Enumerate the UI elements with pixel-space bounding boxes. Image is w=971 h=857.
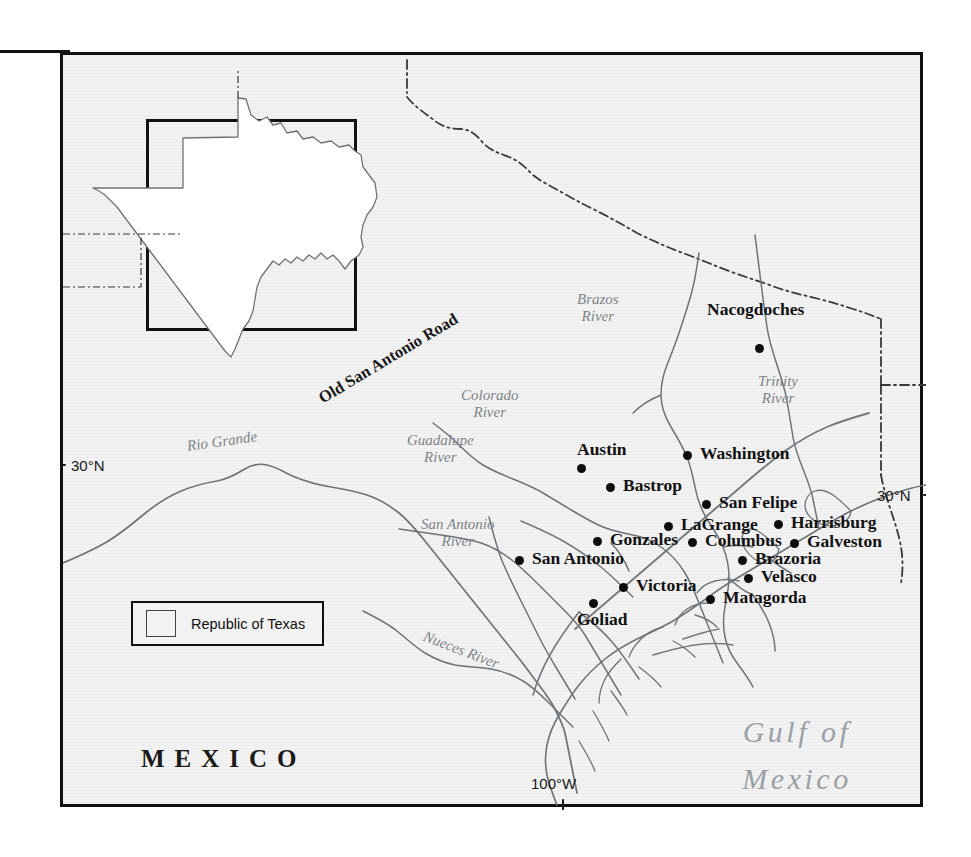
texas-state-outline bbox=[93, 98, 377, 357]
map-frame: TEXAS MEXICO Gulf of Mexico 30°N 30°N 10… bbox=[60, 52, 923, 807]
inset-geometry bbox=[63, 55, 926, 810]
map-page: TEXAS MEXICO Gulf of Mexico 30°N 30°N 10… bbox=[0, 0, 971, 857]
